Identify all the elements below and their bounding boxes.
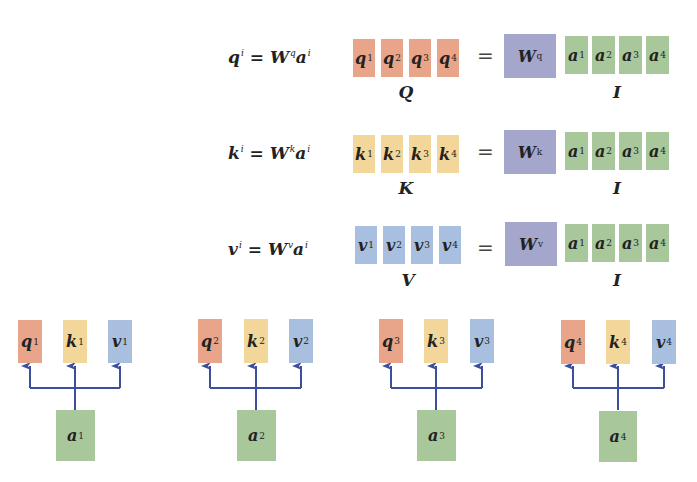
- block-sym: a: [67, 426, 77, 445]
- token2-k: k2: [244, 319, 268, 363]
- block-sup: 2: [213, 336, 219, 346]
- token3-v: v3: [470, 319, 494, 363]
- block-sym: q: [564, 333, 575, 352]
- token1-v: v1: [108, 320, 132, 363]
- block-sym: k: [427, 332, 438, 351]
- block-sym: a: [609, 427, 619, 446]
- block-sup: 3: [394, 336, 400, 346]
- block-sym: k: [66, 332, 77, 351]
- arrow-connectors: [0, 0, 697, 482]
- block-sym: q: [21, 332, 32, 351]
- block-sup: 1: [33, 337, 39, 347]
- block-sup: 4: [666, 337, 672, 347]
- block-sup: 2: [259, 336, 265, 346]
- token2-v: v2: [289, 319, 313, 363]
- token2-a: a2: [237, 410, 276, 461]
- token3-a: a3: [417, 410, 456, 461]
- block-sup: 1: [122, 337, 128, 347]
- block-sym: a: [428, 426, 438, 445]
- token4-q: q4: [561, 320, 585, 364]
- token1-q: q1: [18, 320, 42, 363]
- block-sup: 3: [439, 336, 445, 346]
- block-sup: 2: [259, 431, 265, 441]
- token4-v: v4: [652, 320, 676, 364]
- block-sup: 3: [484, 336, 490, 346]
- token1-k: k1: [63, 320, 87, 363]
- block-sup: 1: [78, 431, 84, 441]
- token4-k: k4: [606, 320, 630, 364]
- block-sym: v: [474, 332, 483, 351]
- block-sup: 4: [621, 337, 627, 347]
- token3-q: q3: [379, 319, 403, 363]
- token4-a: a4: [599, 411, 637, 462]
- block-sup: 2: [303, 336, 309, 346]
- block-sym: k: [247, 332, 258, 351]
- block-sym: v: [293, 332, 302, 351]
- block-sym: a: [248, 426, 258, 445]
- token1-a: a1: [56, 410, 95, 461]
- block-sym: k: [609, 333, 620, 352]
- token3-k: k3: [424, 319, 448, 363]
- block-sup: 3: [439, 431, 445, 441]
- block-sym: v: [112, 332, 121, 351]
- block-sym: q: [201, 332, 212, 351]
- block-sym: q: [382, 332, 393, 351]
- block-sup: 1: [78, 337, 84, 347]
- block-sym: v: [656, 333, 665, 352]
- block-sup: 4: [576, 337, 582, 347]
- block-sup: 4: [621, 432, 627, 442]
- token2-q: q2: [198, 319, 222, 363]
